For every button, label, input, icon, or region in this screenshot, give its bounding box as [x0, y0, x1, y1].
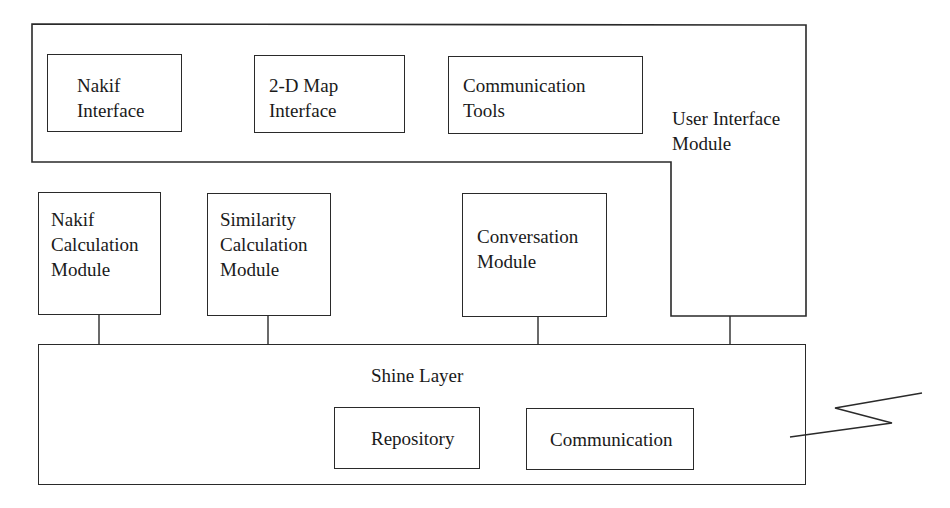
- communication-box: Communication: [526, 408, 694, 470]
- conversation-module-box: Conversation Module: [462, 193, 607, 317]
- conversation-module-label: Conversation Module: [477, 224, 578, 274]
- wireless-link-icon: [790, 393, 922, 437]
- nakif-interface-box: Nakif Interface: [47, 54, 182, 132]
- communication-tools-box: Communication Tools: [448, 56, 643, 134]
- nakif-interface-label: Nakif Interface: [77, 73, 145, 123]
- shine-layer-label: Shine Layer: [371, 363, 463, 388]
- map-interface-box: 2-D Map Interface: [254, 55, 405, 133]
- communication-label: Communication: [550, 427, 672, 452]
- similarity-calculation-module-box: Similarity Calculation Module: [207, 193, 331, 316]
- repository-box: Repository: [334, 407, 480, 469]
- nakif-calculation-module-box: Nakif Calculation Module: [38, 192, 161, 315]
- user-interface-module-label: User Interface Module: [672, 106, 780, 156]
- repository-label: Repository: [371, 426, 454, 451]
- similarity-calculation-module-label: Similarity Calculation Module: [220, 207, 308, 282]
- communication-tools-label: Communication Tools: [463, 73, 585, 123]
- map-interface-label: 2-D Map Interface: [269, 73, 338, 123]
- nakif-calculation-module-label: Nakif Calculation Module: [51, 207, 139, 282]
